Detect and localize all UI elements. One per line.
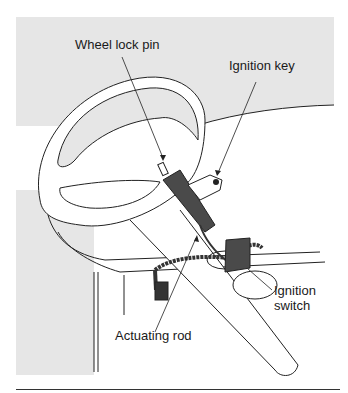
bottom-rule bbox=[16, 389, 340, 390]
label-wheel-lock-pin: Wheel lock pin bbox=[75, 37, 160, 52]
ignition-switch-shape bbox=[225, 238, 250, 272]
connector bbox=[155, 282, 168, 300]
label-actuating-rod: Actuating rod bbox=[115, 328, 192, 343]
label-ignition-switch: Ignition switch bbox=[274, 283, 316, 313]
label-ignition-switch-line2: switch bbox=[274, 298, 316, 313]
label-ignition-switch-line1: Ignition bbox=[274, 283, 316, 298]
label-ignition-key: Ignition key bbox=[229, 58, 295, 73]
